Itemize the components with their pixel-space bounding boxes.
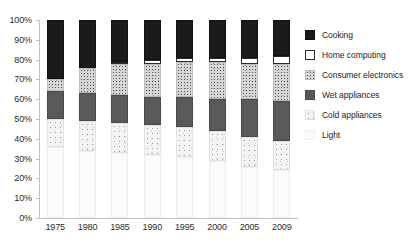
bar-segment[interactable] [144, 60, 161, 64]
legend-item[interactable]: Cooking [305, 25, 416, 44]
bar-segment[interactable] [176, 97, 193, 127]
y-axis-tick-label: 20% [14, 174, 32, 183]
bar-segment[interactable] [241, 20, 258, 58]
y-axis-tick-mark [36, 178, 39, 179]
bar-segment[interactable] [241, 137, 258, 167]
bar-segment[interactable] [111, 20, 128, 62]
y-axis-tick-mark [36, 40, 39, 41]
bar-segment[interactable] [209, 161, 226, 218]
bar-stack [111, 20, 128, 218]
bar-segment[interactable] [273, 101, 290, 141]
bar-segment[interactable] [47, 91, 64, 119]
bar-column[interactable] [47, 20, 64, 218]
x-axis-tick-label: 1990 [143, 222, 163, 233]
bar-column[interactable] [144, 20, 161, 218]
legend-item[interactable]: Consumer electronics [305, 65, 416, 84]
y-axis-tick-mark [36, 60, 39, 61]
bar-column[interactable] [176, 20, 193, 218]
bar-segment[interactable] [176, 58, 193, 62]
legend-swatch-icon [305, 130, 315, 140]
legend-item[interactable]: Home computing [305, 45, 416, 64]
y-axis-tick-label: 100% [9, 16, 32, 25]
bar-segment[interactable] [144, 125, 161, 155]
bar-segment[interactable] [144, 20, 161, 60]
x-axis-tick-label: 1995 [175, 222, 195, 233]
legend-swatch-icon [305, 30, 315, 40]
bar-segment[interactable] [79, 93, 96, 121]
y-axis-tick-label: 80% [14, 55, 32, 64]
y-axis-tick-label: 50% [14, 115, 32, 124]
bar-segment[interactable] [209, 20, 226, 58]
bar-segment[interactable] [79, 68, 96, 94]
bar-segment[interactable] [111, 62, 128, 64]
chart-legend: CookingHome computingConsumer electronic… [305, 25, 416, 145]
bar-segment[interactable] [144, 155, 161, 218]
bar-segment[interactable] [209, 62, 226, 100]
y-axis-tick-mark [36, 99, 39, 100]
bar-column[interactable] [273, 20, 290, 218]
bar-segment[interactable] [176, 62, 193, 98]
bar-segment[interactable] [111, 95, 128, 123]
legend-item[interactable]: Wet appliances [305, 85, 416, 104]
y-axis-tick-mark [36, 218, 39, 219]
bar-segment[interactable] [176, 157, 193, 218]
x-axis-tick-label: 2009 [272, 222, 292, 233]
legend-swatch-icon [305, 50, 315, 60]
x-axis-tick-label: 1985 [110, 222, 130, 233]
legend-label: Wet appliances [322, 90, 379, 100]
bar-segment[interactable] [111, 153, 128, 218]
bar-segment[interactable] [241, 58, 258, 64]
x-axis-tick-label: 1975 [45, 222, 65, 233]
bar-segment[interactable] [111, 64, 128, 96]
bar-segment[interactable] [47, 119, 64, 147]
bar-stack [176, 20, 193, 218]
stacked-bar-chart: 0%10%20%30%40%50%60%70%80%90%100% 197519… [0, 0, 416, 247]
bar-column[interactable] [209, 20, 226, 218]
bar-segment[interactable] [79, 121, 96, 151]
bar-segment[interactable] [176, 20, 193, 58]
legend-swatch-icon [305, 110, 315, 120]
bar-column[interactable] [241, 20, 258, 218]
bar-segment[interactable] [241, 64, 258, 100]
plot-area: 0%10%20%30%40%50%60%70%80%90%100% 197519… [0, 0, 300, 247]
y-axis-tick-label: 0% [19, 214, 32, 223]
bar-segment[interactable] [47, 20, 64, 79]
legend-item[interactable]: Light [305, 125, 416, 144]
bar-segment[interactable] [209, 131, 226, 161]
bar-segment[interactable] [111, 123, 128, 153]
bar-segment[interactable] [144, 64, 161, 98]
bar-column[interactable] [79, 20, 96, 218]
y-axis-tick-label: 60% [14, 95, 32, 104]
bar-segment[interactable] [144, 97, 161, 125]
bar-segment[interactable] [273, 56, 290, 64]
legend-label: Light [322, 130, 340, 140]
legend-label: Cooking [322, 30, 353, 40]
y-axis-tick-mark [36, 139, 39, 140]
bar-segment[interactable] [273, 64, 290, 102]
bar-stack [241, 20, 258, 218]
bar-segment[interactable] [176, 127, 193, 157]
bar-column[interactable] [111, 20, 128, 218]
x-axis-line [39, 218, 298, 219]
bar-segment[interactable] [273, 141, 290, 171]
bar-segment[interactable] [241, 167, 258, 218]
bar-stack [209, 20, 226, 218]
bar-segment[interactable] [209, 58, 226, 62]
legend-item[interactable]: Cold appliances [305, 105, 416, 124]
y-axis-tick-label: 30% [14, 154, 32, 163]
legend-swatch-icon [305, 90, 315, 100]
x-axis-tick-label: 2000 [207, 222, 227, 233]
legend-label: Consumer electronics [322, 70, 403, 80]
bar-segment[interactable] [79, 151, 96, 218]
bar-segment[interactable] [209, 99, 226, 131]
y-axis-tick-mark [36, 20, 39, 21]
bar-segment[interactable] [241, 99, 258, 137]
bar-segment[interactable] [273, 20, 290, 56]
legend-label: Cold appliances [322, 110, 382, 120]
bar-segment[interactable] [79, 20, 96, 68]
x-axis-tick-label: 1980 [78, 222, 98, 233]
x-axis: 19751980198519901995200020052009 [39, 222, 298, 238]
bar-segment[interactable] [273, 170, 290, 218]
bar-segment[interactable] [47, 79, 64, 91]
bar-segment[interactable] [47, 147, 64, 218]
